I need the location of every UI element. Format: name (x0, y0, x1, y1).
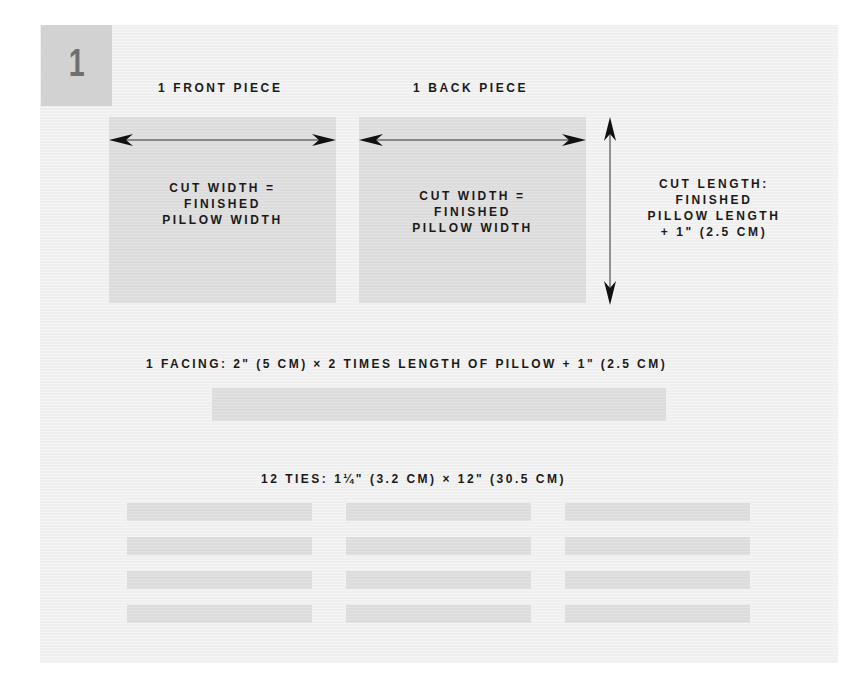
front-piece-line: FINISHED (109, 196, 336, 212)
back-piece-title: 1 BACK PIECE (413, 81, 528, 96)
length-arrow-icon (602, 117, 618, 305)
tie-strip (346, 605, 531, 623)
tie-strip (127, 605, 312, 623)
front-piece-title: 1 FRONT PIECE (158, 81, 282, 96)
tie-strip (346, 537, 531, 555)
cut-length-line: CUT LENGTH: (634, 176, 794, 192)
front-piece-line: CUT WIDTH = (109, 180, 336, 196)
tie-strip (346, 571, 531, 589)
tie-strip (565, 605, 750, 623)
tie-strip (127, 537, 312, 555)
ties-label: 12 TIES: 1¼" (3.2 CM) × 12" (30.5 CM) (261, 472, 566, 487)
cut-length-line: PILLOW LENGTH (634, 208, 794, 224)
width-arrow-icon (359, 132, 586, 148)
cut-length-line: + 1" (2.5 CM) (634, 224, 794, 240)
front-piece-line: PILLOW WIDTH (109, 212, 336, 228)
cut-length-line: FINISHED (634, 192, 794, 208)
step-number: 1 (69, 42, 85, 85)
step-badge: 1 (41, 25, 112, 106)
cut-length-description: CUT LENGTH: FINISHED PILLOW LENGTH + 1" … (634, 176, 794, 240)
tie-strip (346, 503, 531, 521)
tie-strip (127, 571, 312, 589)
tie-strip (127, 503, 312, 521)
tie-strip (565, 503, 750, 521)
back-piece-line: FINISHED (359, 204, 586, 220)
width-arrow-icon (109, 132, 336, 148)
tie-strip (565, 571, 750, 589)
back-piece-line: PILLOW WIDTH (359, 220, 586, 236)
front-piece-description: CUT WIDTH = FINISHED PILLOW WIDTH (109, 180, 336, 228)
back-piece-description: CUT WIDTH = FINISHED PILLOW WIDTH (359, 188, 586, 236)
back-piece-line: CUT WIDTH = (359, 188, 586, 204)
facing-label: 1 FACING: 2" (5 CM) × 2 TIMES LENGTH OF … (146, 357, 667, 372)
facing-strip (212, 388, 666, 421)
tie-strip (565, 537, 750, 555)
